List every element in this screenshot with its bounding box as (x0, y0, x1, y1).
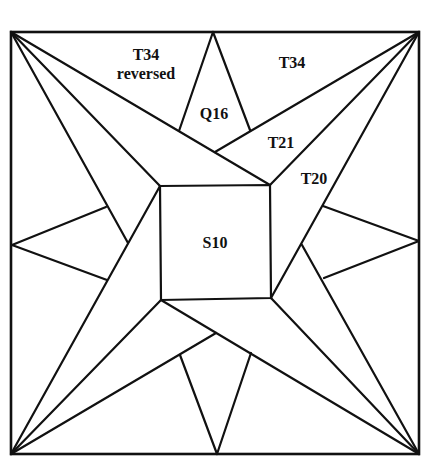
label-t21: T21 (268, 134, 295, 151)
label-t34-reversed-line2: reversed (117, 65, 175, 82)
seam-bl-diag (11, 300, 161, 454)
seam-bl-long (11, 186, 160, 454)
seam-bottom-kite-left (180, 355, 217, 454)
seam-br-long (161, 300, 419, 454)
seam-right-kite-top (323, 206, 419, 241)
seam-bl-short (11, 333, 216, 454)
seam-left-kite-top (12, 207, 106, 245)
seam-tr-long (271, 32, 419, 298)
seam-tl-short (11, 32, 128, 243)
label-t20: T20 (301, 170, 328, 187)
quilt-block-diagram: T34 reversed T34 Q16 T21 T20 S10 (0, 0, 423, 457)
seam-tr-short (215, 32, 419, 152)
label-t34: T34 (279, 54, 306, 71)
seam-bottom-kite-right (217, 353, 251, 454)
seam-left-kite-bottom (12, 245, 107, 280)
label-t34-reversed-line1: T34 (133, 46, 160, 63)
label-q16: Q16 (200, 105, 228, 122)
seam-right-kite-bottom (324, 241, 419, 278)
label-s10: S10 (203, 234, 228, 251)
